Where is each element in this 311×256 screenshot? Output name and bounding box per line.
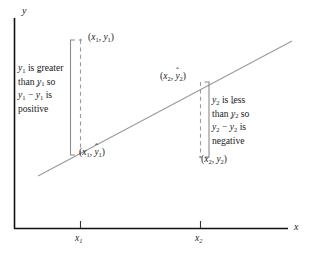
- note-right: y2 is lessthan yˆ2 soy2 − yˆ2 isnegative: [212, 94, 249, 147]
- subscript: 1: [108, 36, 111, 43]
- y-hat-symbol: yˆ: [175, 72, 179, 82]
- hat-accent: ˆ: [94, 143, 98, 152]
- subscript: 1: [40, 94, 43, 101]
- hat-accent: ˆ: [231, 102, 235, 111]
- hat-accent: ˆ: [36, 84, 40, 93]
- point-label-observed-2: (x2, y2): [201, 155, 227, 165]
- note-line: positive: [18, 103, 63, 116]
- subscript: 1: [99, 151, 102, 158]
- x-tick-label-x1: x1: [75, 234, 82, 244]
- bracket-left: [71, 40, 76, 155]
- point-marker-observed-1: [79, 39, 82, 42]
- subscript: 2: [167, 75, 170, 82]
- note-line: y1 − yˆ1 is: [18, 89, 63, 103]
- subscript: 1: [86, 151, 89, 158]
- x-axis-label: x: [294, 222, 298, 232]
- subscript: 2: [208, 158, 211, 165]
- hat-accent: ˆ: [37, 70, 41, 79]
- point-label-observed-1: (x1, y1): [88, 33, 114, 43]
- diagram-canvas: [0, 0, 311, 256]
- note-left: y1 is greaterthan yˆ1 soy1 − yˆ1 isposit…: [18, 62, 63, 115]
- x-tick-label-x2-sub: 2: [199, 237, 202, 244]
- subscript: 1: [95, 36, 98, 43]
- bracket-right: [205, 82, 210, 157]
- subscript: 1: [22, 67, 25, 74]
- hat-accent: ˆ: [175, 67, 179, 76]
- subscript: 1: [22, 94, 25, 101]
- point-label-fitted-1: (x1, yˆ1): [79, 148, 105, 158]
- subscript: 2: [216, 99, 219, 106]
- y-axis-label: y: [22, 6, 26, 16]
- regression-line: [38, 41, 292, 176]
- subscript: 2: [221, 158, 224, 165]
- y-hat-symbol: yˆ: [94, 148, 98, 158]
- hat-accent: ˆ: [230, 116, 234, 125]
- math-symbol: y: [103, 32, 107, 42]
- subscript: 1: [41, 80, 44, 87]
- math-symbol: y: [216, 154, 220, 164]
- point-label-fitted-2: (x2, yˆ2): [160, 72, 186, 82]
- x-tick-label-x2: x2: [195, 234, 202, 244]
- residual-diagram: y x x1 x2 (x1, y1) (x1, yˆ1) (x2, yˆ2) (…: [0, 0, 311, 256]
- subscript: 2: [234, 126, 237, 133]
- note-line: than yˆ1 so: [18, 76, 63, 90]
- x-tick-label-x1-sub: 1: [79, 237, 82, 244]
- note-line: negative: [212, 135, 249, 148]
- subscript: 2: [235, 112, 238, 119]
- subscript: 2: [216, 126, 219, 133]
- subscript: 2: [180, 75, 183, 82]
- note-line: y2 − yˆ2 is: [212, 121, 249, 135]
